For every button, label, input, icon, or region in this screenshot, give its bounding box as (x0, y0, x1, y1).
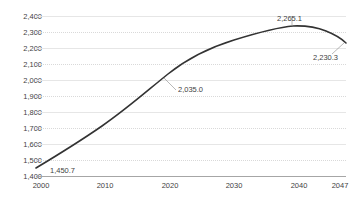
plot-area (36, 16, 346, 176)
x-axis-line (36, 176, 346, 177)
series-layer (36, 16, 346, 176)
leader-line-mid (164, 78, 176, 90)
x-axis-tick-2047: 2047 (332, 182, 349, 190)
chart-container: 2,400 2,300 2,200 2,100 2,000 1,900 1,80… (0, 0, 358, 204)
x-axis-tick-2040: 2040 (291, 182, 308, 190)
x-axis-tick-2000: 2000 (33, 182, 50, 190)
data-label-start: 1,450.7 (50, 167, 75, 175)
data-label-end: 2,230.3 (313, 54, 338, 62)
x-axis-tick-2030: 2030 (226, 182, 243, 190)
chart-title (0, 0, 358, 3)
x-axis-tick-2020: 2020 (162, 182, 179, 190)
x-axis-tick-2010: 2010 (97, 182, 114, 190)
data-label-peak: 2,265.1 (277, 15, 302, 23)
data-label-mid: 2,035.0 (178, 86, 203, 94)
data-line-series-1 (36, 26, 346, 168)
